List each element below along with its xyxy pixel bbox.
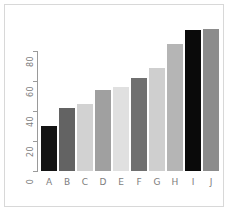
bar-j <box>203 29 219 172</box>
bar-b <box>59 108 75 171</box>
x-axis-label-a: A <box>41 177 57 187</box>
x-axis-label-i: I <box>185 177 201 187</box>
bar-i <box>185 30 201 171</box>
x-axis-label-f: F <box>131 177 147 187</box>
bar-a <box>41 126 57 171</box>
bar-f <box>131 78 147 171</box>
bar-g <box>149 68 165 172</box>
bar-c <box>77 104 93 172</box>
bar-e <box>113 87 129 171</box>
bar-d <box>95 90 111 171</box>
x-axis-label-d: D <box>95 177 111 187</box>
x-axis-label-h: H <box>167 177 183 187</box>
x-axis-label-g: G <box>149 177 165 187</box>
plot-area: 020406080 ABCDEFGHIJ <box>0 0 229 212</box>
x-axis-label-b: B <box>59 177 75 187</box>
bar-h <box>167 44 183 172</box>
x-axis-label-j: J <box>203 177 219 187</box>
chart-screenshot: 020406080 ABCDEFGHIJ <box>0 0 229 212</box>
x-axis-label-e: E <box>113 177 129 187</box>
x-axis-label-c: C <box>77 177 93 187</box>
